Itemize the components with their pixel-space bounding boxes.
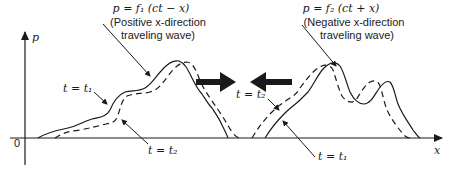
negative-wave-t2-curve (252, 65, 410, 138)
left-t1-leader (94, 92, 107, 104)
negative-wave-t2-label: t = t₂ (236, 89, 265, 100)
negative-wave-equation: p = f₂ (ct + x) (303, 3, 380, 14)
traveling-wave-diagram: p x 0 p = f₁ (ct − x) (Positive x-direct… (0, 0, 452, 171)
origin-label: 0 (14, 138, 20, 149)
positive-wave-t1-label: t = t₁ (63, 83, 92, 94)
positive-wave-description-line2: traveling wave) (121, 30, 195, 41)
positive-wave-equation: p = f₁ (ct − x) (113, 3, 190, 14)
right-t2-leader (268, 99, 279, 110)
negative-wave-t1-label: t = t₁ (318, 151, 347, 162)
y-axis-label: p (32, 32, 39, 43)
x-axis-label: x (434, 145, 440, 156)
positive-wave-t2-label: t = t₂ (148, 145, 177, 156)
right-t1-leader (283, 121, 315, 157)
positive-wave-t1-curve (38, 61, 228, 138)
negative-wave-description-line1: (Negative x-direction (304, 17, 405, 28)
left-t2-leader (122, 120, 148, 144)
positive-direction-arrow (196, 72, 236, 92)
negative-wave-description-line2: traveling wave) (320, 30, 394, 41)
positive-wave-description-line1: (Positive x-direction (110, 17, 206, 28)
